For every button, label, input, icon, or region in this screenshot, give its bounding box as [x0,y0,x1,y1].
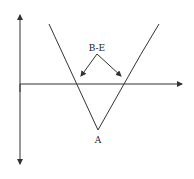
breakeven-label: B-E [89,43,105,53]
breakeven-arrow-right [97,54,121,76]
breakeven-arrow-left [81,54,97,76]
vertex-label: A [94,135,102,145]
payoff-line [49,24,159,130]
payoff-diagram: B-E A [0,0,194,179]
